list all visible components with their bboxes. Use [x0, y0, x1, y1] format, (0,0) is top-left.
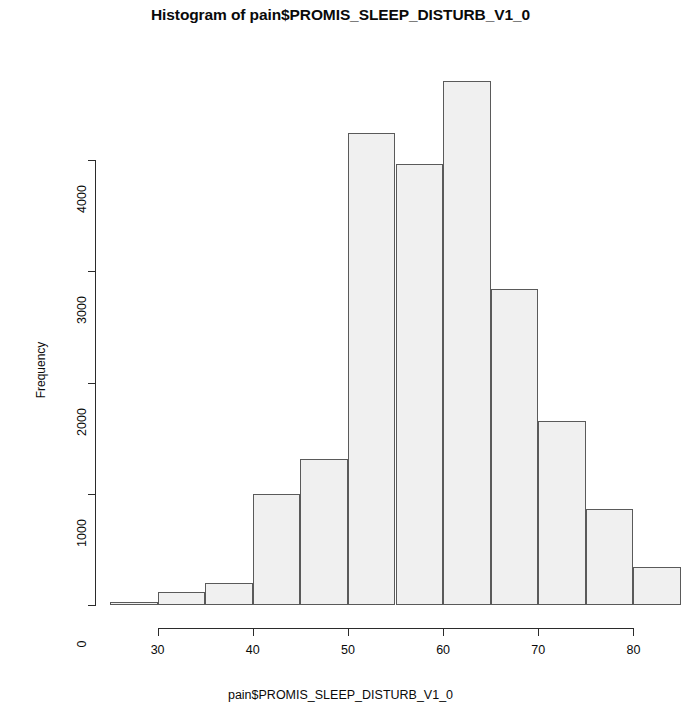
x-axis-tick-label: 60	[436, 643, 450, 657]
y-axis-tick	[88, 494, 96, 495]
histogram-bar	[253, 494, 301, 605]
x-axis-tick	[158, 628, 159, 636]
y-axis-tick	[88, 605, 96, 606]
y-axis-line	[95, 160, 96, 605]
y-axis-tick-label: 4000	[75, 158, 89, 240]
x-axis-line	[158, 628, 634, 629]
histogram-plot: Histogram of pain$PROMIS_SLEEP_DISTURB_V…	[0, 0, 681, 720]
histogram-bar	[348, 133, 396, 605]
x-axis-title: pain$PROMIS_SLEEP_DISTURB_V1_0	[0, 688, 681, 702]
y-axis-tick	[88, 271, 96, 272]
x-axis-tick	[253, 628, 254, 636]
histogram-bar	[205, 583, 253, 605]
y-axis-tick	[88, 383, 96, 384]
histogram-bar	[443, 81, 491, 605]
page-title: Histogram of pain$PROMIS_SLEEP_DISTURB_V…	[0, 6, 681, 24]
histogram-bar	[586, 509, 634, 605]
x-axis-tick-label: 70	[531, 643, 545, 657]
y-axis-tick-label: 2000	[75, 381, 89, 463]
x-axis-tick	[348, 628, 349, 636]
x-axis-tick-label: 30	[151, 643, 165, 657]
x-axis-tick	[633, 628, 634, 636]
y-axis-title: Frequency	[34, 270, 48, 470]
x-axis-tick	[538, 628, 539, 636]
x-axis-tick	[443, 628, 444, 636]
histogram-bar	[158, 592, 206, 605]
histogram-bar	[491, 289, 539, 605]
y-axis-tick-label: 0	[75, 603, 89, 685]
histogram-bar	[300, 459, 348, 605]
plot-panel: 01000200030004000304050607080	[0, 0, 681, 720]
x-axis-tick-label: 50	[341, 643, 355, 657]
y-axis-tick-label: 3000	[75, 269, 89, 351]
x-axis-tick-label: 80	[626, 643, 640, 657]
y-axis-tick-label: 1000	[75, 492, 89, 574]
histogram-bar	[633, 567, 681, 605]
x-axis-tick-label: 40	[246, 643, 260, 657]
histogram-bar	[110, 602, 158, 605]
histogram-bar	[538, 421, 586, 605]
histogram-bar	[396, 164, 444, 605]
y-axis-tick	[88, 160, 96, 161]
